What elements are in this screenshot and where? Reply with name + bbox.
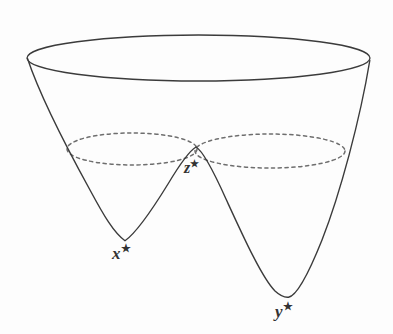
label-right-minimum-symbol: y: [275, 302, 283, 321]
label-left-minimum-symbol: x: [112, 244, 121, 263]
label-left-minimum-star: ★: [121, 243, 131, 254]
level-set-left-lobe-dashed: [67, 133, 197, 165]
label-saddle-point-star: ★: [190, 158, 199, 169]
front-profile-curve: [28, 59, 370, 298]
label-right-minimum: y★: [275, 302, 293, 320]
level-set-right-lobe-dashed: [195, 134, 345, 168]
label-left-minimum: x★: [112, 244, 131, 262]
rim-ellipse: [27, 35, 370, 81]
label-saddle-point: z★: [184, 159, 199, 176]
label-right-minimum-star: ★: [283, 301, 293, 312]
figure-container: x★ y★ z★: [0, 0, 393, 334]
